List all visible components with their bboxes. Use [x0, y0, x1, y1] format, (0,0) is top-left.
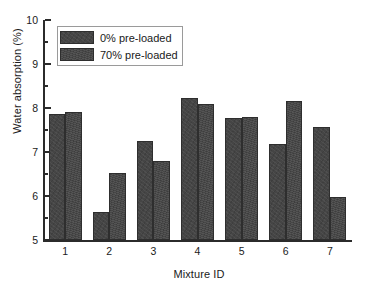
- legend-swatch: [60, 31, 94, 44]
- bar: [330, 197, 347, 240]
- x-tick-label: 3: [141, 245, 165, 257]
- y-tick-minor: [45, 217, 49, 218]
- bar: [286, 101, 303, 240]
- x-tick-label: 1: [53, 245, 77, 257]
- bar: [65, 112, 82, 240]
- bar: [137, 141, 154, 240]
- legend-label: 0% pre-loaded: [100, 32, 172, 44]
- legend-item: 70% pre-loaded: [60, 46, 178, 63]
- bar: [109, 173, 126, 240]
- y-tick-label: 7: [8, 146, 38, 158]
- y-tick-label: 9: [8, 58, 38, 70]
- bar: [313, 127, 330, 240]
- x-tick-label: 6: [274, 245, 298, 257]
- x-tick-label: 4: [186, 245, 210, 257]
- bar: [181, 98, 198, 240]
- x-axis-title: Mixture ID: [40, 268, 358, 280]
- bar: [198, 104, 215, 240]
- bar: [242, 117, 259, 240]
- y-tick-label: 10: [8, 14, 38, 26]
- x-tick-label: 2: [97, 245, 121, 257]
- x-tick-label: 7: [318, 245, 342, 257]
- bar: [49, 114, 66, 240]
- y-tick-major: [45, 19, 51, 20]
- chart-figure: Water absorption (%) Mixture ID 5678910 …: [0, 0, 365, 291]
- bar: [93, 212, 110, 240]
- legend-label: 70% pre-loaded: [100, 49, 178, 61]
- x-tick-label: 5: [230, 245, 254, 257]
- y-tick-minor: [45, 41, 49, 42]
- y-tick-major: [45, 107, 51, 108]
- y-tick-minor: [45, 85, 49, 86]
- bar: [269, 144, 286, 240]
- y-tick-major: [45, 63, 51, 64]
- y-tick-minor: [45, 129, 49, 130]
- chart-legend: 0% pre-loaded70% pre-loaded: [57, 26, 183, 66]
- x-axis-line: [43, 240, 352, 242]
- y-tick-label: 8: [8, 102, 38, 114]
- y-tick-label: 6: [8, 190, 38, 202]
- legend-swatch: [60, 48, 94, 61]
- bar: [225, 118, 242, 240]
- y-tick-label: 5: [8, 234, 38, 246]
- bar: [153, 161, 170, 240]
- legend-item: 0% pre-loaded: [60, 29, 178, 46]
- y-tick-minor: [45, 173, 49, 174]
